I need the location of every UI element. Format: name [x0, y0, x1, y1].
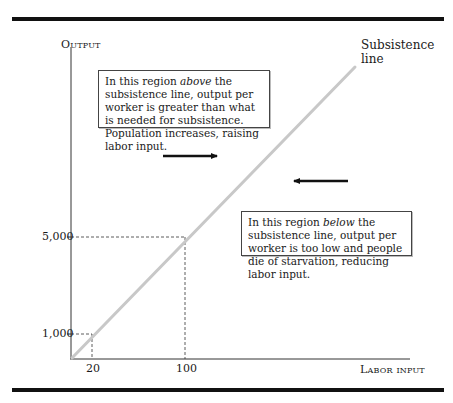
note-below-region: In this region below the subsistence lin… — [241, 211, 412, 256]
note-above-text-pre: In this region — [105, 75, 180, 87]
x-axis-title: Labor input — [360, 363, 425, 376]
series-label-line1: Subsistence — [361, 38, 434, 52]
series-label-line2: line — [361, 52, 434, 66]
y-tick-label-1000: 1,000 — [42, 327, 74, 340]
note-above-emphasis: above — [180, 75, 211, 87]
x-tick-label-20: 20 — [86, 362, 100, 375]
note-above-region: In this region above the subsistence lin… — [98, 70, 270, 128]
subsistence-line-label: Subsistence line — [361, 38, 434, 66]
bottom-rule — [12, 388, 444, 392]
y-axis-title: Output — [61, 38, 101, 51]
note-below-emphasis: below — [323, 216, 355, 228]
x-tick-label-100: 100 — [176, 362, 197, 375]
note-below-text-pre: In this region — [248, 216, 323, 228]
y-tick-label-5000: 5,000 — [42, 230, 74, 243]
